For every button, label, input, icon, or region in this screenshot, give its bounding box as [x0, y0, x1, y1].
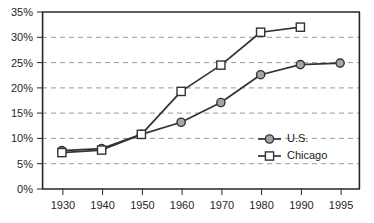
y-axis-label: 0% [17, 183, 33, 195]
open-square-marker [98, 146, 106, 154]
x-axis-label: 1930 [51, 199, 75, 211]
x-axis-labels: 1930 1940 1950 1960 1970 1980 1990 1995 [51, 199, 354, 211]
y-axis-label: 5% [17, 158, 33, 170]
y-axis-label: 10% [11, 132, 33, 144]
plot-area-background [42, 12, 360, 189]
open-square-marker [257, 28, 265, 36]
y-axis-labels: 35% 30% 25% 20% 15% 10% 5% 0% [11, 6, 33, 195]
filled-circle-marker [177, 118, 185, 126]
y-axis-label: 20% [11, 82, 33, 94]
filled-circle-marker [296, 60, 304, 68]
x-axis-label: 1995 [329, 199, 353, 211]
line-chart: 35% 30% 25% 20% 15% 10% 5% 0% 1930 1940 … [0, 0, 374, 223]
open-square-marker [217, 61, 225, 69]
open-square-marker [58, 148, 66, 156]
x-axis-label: 1960 [170, 199, 194, 211]
legend-label-us: U.S. [287, 132, 308, 144]
filled-circle-icon [265, 135, 273, 143]
x-axis-label: 1940 [90, 199, 114, 211]
x-axis-label: 1950 [130, 199, 154, 211]
open-square-marker [177, 87, 185, 95]
x-axis-label: 1990 [289, 199, 313, 211]
filled-circle-marker [257, 71, 265, 79]
y-axis-label: 15% [11, 107, 33, 119]
legend-label-chicago: Chicago [287, 149, 327, 161]
open-square-marker [296, 23, 304, 31]
x-axis-label: 1980 [249, 199, 273, 211]
legend-entry-chicago: Chicago [258, 149, 327, 161]
filled-circle-marker [336, 59, 344, 67]
y-axis-ticks [37, 12, 42, 189]
filled-circle-marker [217, 98, 225, 106]
y-axis-label: 25% [11, 57, 33, 69]
x-axis-ticks [63, 189, 341, 195]
chart-container: 35% 30% 25% 20% 15% 10% 5% 0% 1930 1940 … [0, 0, 374, 223]
y-axis-label: 30% [11, 31, 33, 43]
x-axis-label: 1970 [210, 199, 234, 211]
open-square-marker [137, 130, 145, 138]
open-square-icon [265, 152, 273, 160]
y-axis-label: 35% [11, 6, 33, 18]
